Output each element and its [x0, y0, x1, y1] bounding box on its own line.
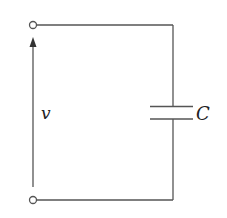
capacitor-label: C [196, 103, 210, 124]
arrow-up-icon [30, 37, 37, 47]
terminal-top-icon [30, 22, 37, 29]
voltage-label: v [41, 103, 51, 123]
circuit-diagram: v C [0, 0, 227, 218]
terminal-bottom-icon [30, 197, 37, 204]
